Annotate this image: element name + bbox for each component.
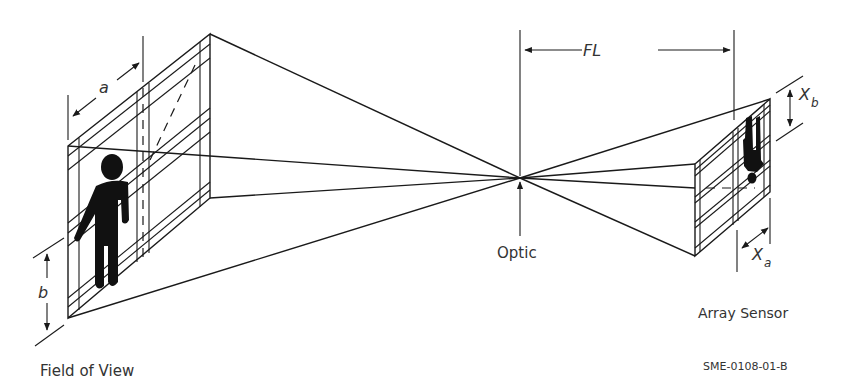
- array-sensor-plane: [695, 99, 770, 256]
- focal-length-label: FL: [583, 41, 601, 60]
- field-of-view-label: Field of View: [40, 362, 134, 380]
- dimension-a-label: a: [99, 78, 109, 97]
- dimension-xb-label: Xb: [799, 85, 818, 104]
- diagram: [0, 0, 855, 390]
- dimension-b-label: b: [38, 283, 48, 302]
- array-sensor-label: Array Sensor: [698, 305, 788, 321]
- projection-rays: [68, 34, 770, 318]
- field-of-view-plane: [68, 34, 210, 318]
- dimension-focal-length: [525, 30, 734, 120]
- human-figure: [74, 154, 129, 289]
- dimension-xa-main: X: [752, 245, 763, 264]
- optic-label: Optic: [497, 244, 537, 262]
- dimension-xa-label: Xa: [752, 245, 770, 264]
- dimension-xa-subscript: a: [764, 256, 771, 270]
- dimension-xb-main: X: [799, 85, 810, 104]
- figure-code-label: SME-0108-01-B: [703, 360, 787, 373]
- dimension-xb-subscript: b: [811, 96, 819, 110]
